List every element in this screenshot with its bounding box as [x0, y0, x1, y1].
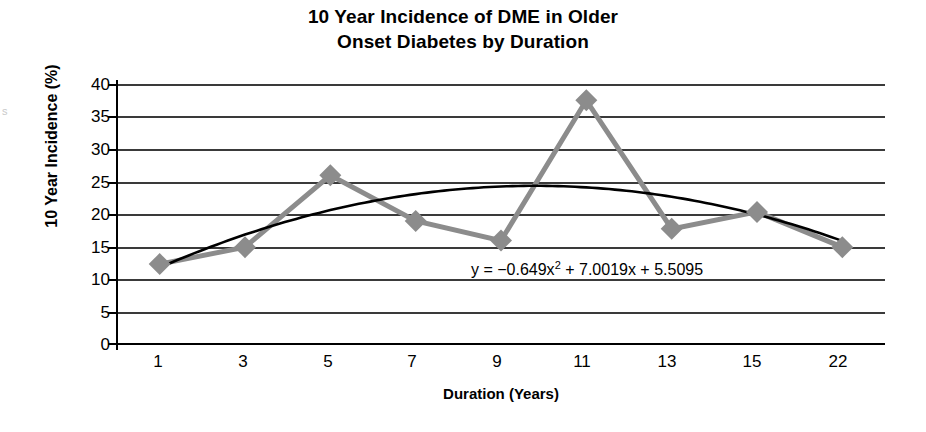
- trendline-equation-label: y = −0.649x2 + 7.0019x + 5.5095: [471, 256, 703, 279]
- x-tick-label: 3: [223, 352, 263, 371]
- chart-title-line-1: 10 Year Incidence of DME in Older: [0, 4, 926, 29]
- x-tick-label: 7: [392, 352, 432, 371]
- plot-area: [117, 84, 885, 345]
- data-point-markers: [149, 89, 854, 275]
- page-edge-artifact: s: [2, 104, 11, 118]
- y-tick-label: 15: [66, 239, 110, 256]
- equation-prefix: y = −0.649x: [471, 261, 555, 278]
- data-point-marker: [405, 210, 427, 232]
- x-axis-title: Duration (Years): [117, 385, 885, 402]
- series-plot: [117, 84, 885, 345]
- x-tick-label: 13: [647, 352, 687, 371]
- x-tick-label: 15: [732, 352, 772, 371]
- y-tick-label: 0: [66, 336, 110, 353]
- y-tick-label: 25: [66, 174, 110, 191]
- y-tick-label: 10: [66, 271, 110, 288]
- y-tick-label-group: 40 35 30 25 20 15 10 5 0: [60, 84, 110, 345]
- data-point-marker: [746, 201, 768, 223]
- y-tick-label: 20: [66, 206, 110, 223]
- data-point-marker: [149, 253, 171, 275]
- y-tick-label: 5: [66, 304, 110, 321]
- x-tick-label: 9: [477, 352, 517, 371]
- y-tick-label: 35: [66, 108, 110, 125]
- data-point-marker: [490, 230, 512, 252]
- equation-suffix: + 7.0019x + 5.5095: [561, 261, 703, 278]
- x-tick-label: 1: [138, 352, 178, 371]
- x-tick-label: 22: [818, 352, 858, 371]
- x-tick-label: 5: [308, 352, 348, 371]
- chart-title-line-2: Onset Diabetes by Duration: [0, 29, 926, 54]
- x-tick-label: 11: [562, 352, 602, 371]
- chart-root: 10 Year Incidence of DME in Older Onset …: [0, 0, 926, 432]
- y-axis-title: 10 Year Incidence (%): [43, 16, 61, 276]
- y-tick-label: 40: [66, 76, 110, 93]
- chart-title: 10 Year Incidence of DME in Older Onset …: [0, 4, 926, 54]
- y-tick-label: 30: [66, 141, 110, 158]
